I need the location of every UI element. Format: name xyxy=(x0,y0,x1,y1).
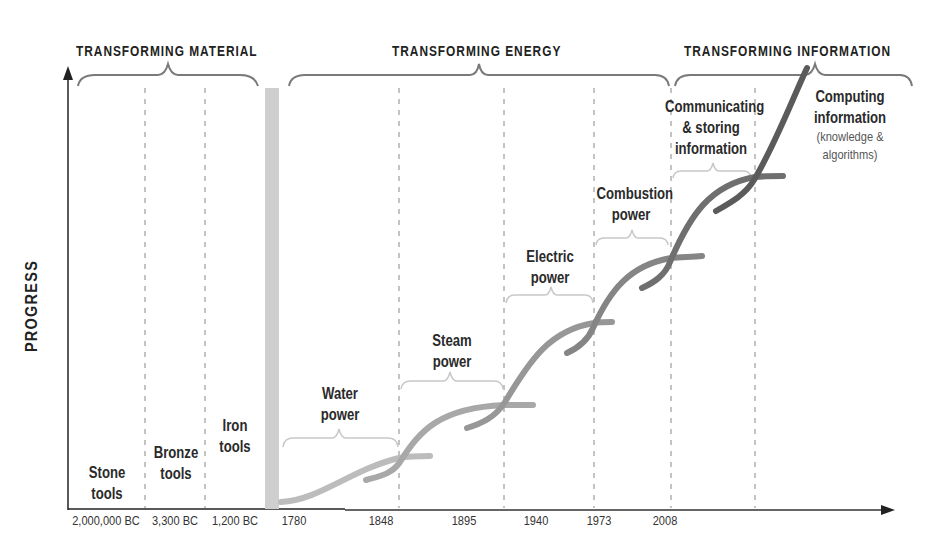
stage-label-steam: Steam power xyxy=(419,330,485,372)
stage-sublabel-line: algorithms) xyxy=(809,146,891,164)
stage-label-line: power xyxy=(597,204,666,225)
stage-label-line: Stone xyxy=(83,462,131,483)
stage-label-line: tools xyxy=(211,436,259,457)
x-tick: 2,000,000 BC xyxy=(72,513,140,528)
y-axis xyxy=(63,66,73,510)
stage-label-line: tools xyxy=(151,463,200,484)
era-title-information: TRANSFORMING INFORMATION xyxy=(684,43,891,59)
brace-information xyxy=(675,64,912,86)
stage-label-water: Water power xyxy=(307,383,373,425)
stage-sublabel-line: (knowledge & xyxy=(809,128,891,146)
stage-label-iron: Iron tools xyxy=(211,415,259,457)
stage-label-stone: Stone tools xyxy=(83,462,131,504)
curve-combustion-power xyxy=(567,256,702,353)
stage-label-line: Steam xyxy=(419,330,485,351)
brace-communicating xyxy=(673,163,751,178)
stage-label-line: Iron xyxy=(211,415,259,436)
stage-label-electric: Electric power xyxy=(517,246,583,288)
stage-label-line: Electric xyxy=(517,246,583,267)
stage-label-line: power xyxy=(419,351,485,372)
stage-label-line: tools xyxy=(83,483,131,504)
x-tick: 1940 xyxy=(524,513,549,528)
stage-label-line: & storing xyxy=(665,117,757,138)
stage-label-line: Computing xyxy=(809,86,891,107)
era-title-energy: TRANSFORMING ENERGY xyxy=(392,43,561,59)
stage-label-combustion: Combustion power xyxy=(597,183,666,225)
brace-material xyxy=(78,64,258,86)
era-title-material: TRANSFORMING MATERIAL xyxy=(76,43,258,59)
brace-water xyxy=(283,429,398,447)
stage-label-computing: Computing information (knowledge & algor… xyxy=(809,86,891,164)
progress-diagram: TRANSFORMING MATERIAL TRANSFORMING ENERG… xyxy=(0,0,949,557)
stage-label-line: Combustion xyxy=(597,183,666,204)
stage-label-line: Bronze xyxy=(151,442,200,463)
brace-steam xyxy=(401,372,503,389)
brace-combustion xyxy=(596,230,668,245)
stage-label-line: Water xyxy=(307,383,373,404)
era-break-bar xyxy=(265,88,279,509)
x-tick: 1,200 BC xyxy=(212,513,258,528)
x-tick: 2008 xyxy=(653,513,678,528)
curve-steam-power xyxy=(366,405,533,480)
brace-electric xyxy=(506,287,593,303)
stage-label-line: power xyxy=(517,267,583,288)
diagram-graphics xyxy=(0,0,949,557)
x-tick: 1780 xyxy=(282,513,307,528)
x-tick: 1848 xyxy=(369,513,394,528)
stage-label-line: power xyxy=(307,404,373,425)
stage-label-line: information xyxy=(809,107,891,128)
stage-label-bronze: Bronze tools xyxy=(151,442,200,484)
x-tick: 3,300 BC xyxy=(152,513,198,528)
brace-energy xyxy=(289,64,669,86)
y-axis-label: PROGRESS xyxy=(22,260,42,352)
curve-water-power xyxy=(281,456,430,502)
stage-label-line: information xyxy=(665,138,757,159)
stage-label-communicating: Communicating & storing information xyxy=(665,96,757,159)
stage-label-line: Communicating xyxy=(665,96,757,117)
x-tick: 1973 xyxy=(587,513,612,528)
x-tick: 1895 xyxy=(452,513,477,528)
era-braces xyxy=(78,64,912,86)
